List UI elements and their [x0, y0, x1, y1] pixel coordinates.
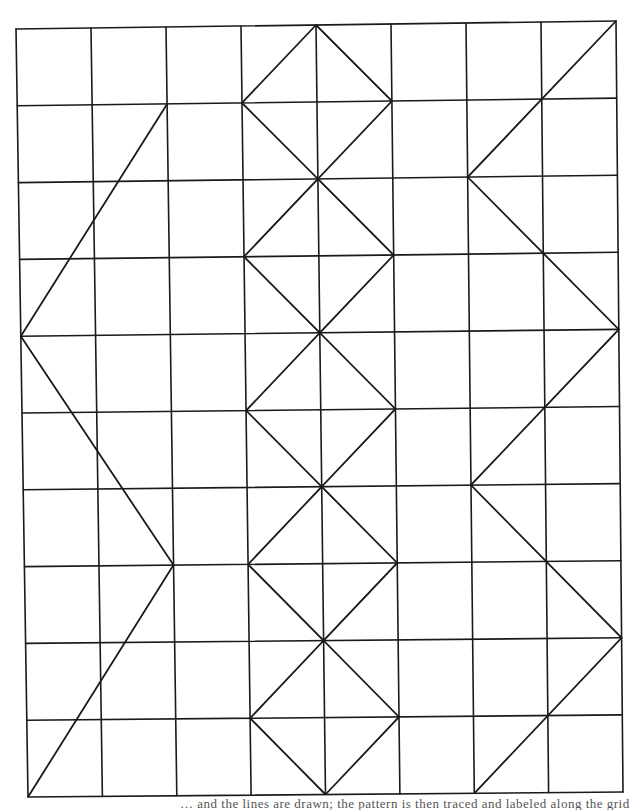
grid-lines — [16, 21, 623, 797]
left-zigzag-line — [21, 104, 174, 797]
truncated-caption-text: … and the lines are drawn; the pattern i… — [180, 796, 639, 810]
